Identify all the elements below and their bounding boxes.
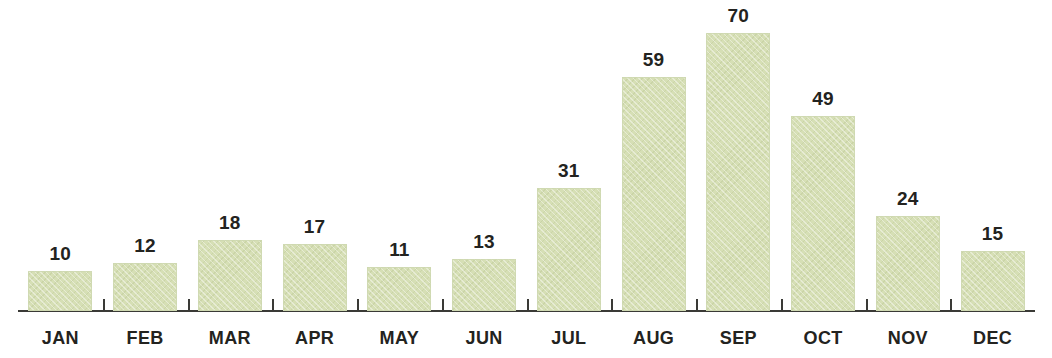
x-axis-tick [611,299,613,310]
x-axis-tick [866,299,868,310]
x-axis-tick [272,299,274,310]
x-axis-tick [781,299,783,310]
x-axis-tick [103,299,105,310]
x-axis-tick [442,299,444,310]
x-axis-tick [188,299,190,310]
x-axis-ticks [0,0,1052,358]
bar-chart: 10JAN12FEB18MAR17APR11MAY13JUN31JUL59AUG… [0,0,1052,358]
plot-area: 10JAN12FEB18MAR17APR11MAY13JUN31JUL59AUG… [0,0,1052,358]
x-axis-tick [696,299,698,310]
x-axis-tick [357,299,359,310]
x-axis-tick [950,299,952,310]
x-axis-tick [527,299,529,310]
